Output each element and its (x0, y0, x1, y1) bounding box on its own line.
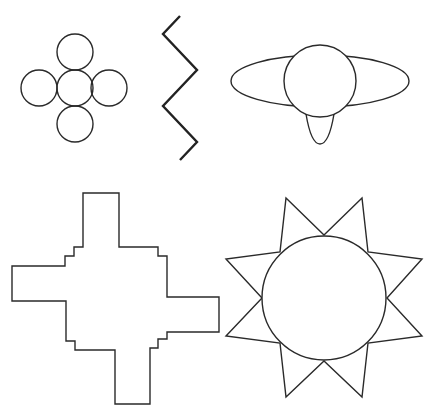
cluster-circle (91, 70, 127, 106)
cluster-circle (57, 106, 93, 142)
circle-cluster (21, 34, 127, 142)
ellipse-figure (231, 45, 409, 144)
sun-figure (226, 198, 422, 397)
zigzag-line (163, 16, 197, 160)
stepped-cross (12, 193, 219, 404)
cluster-circle (57, 34, 93, 70)
ellipse-center-circle (284, 45, 356, 117)
shapes-canvas (0, 0, 436, 418)
sun-circle (262, 236, 386, 360)
drop-shape (306, 114, 334, 144)
cluster-circle (57, 70, 93, 106)
cluster-circle (21, 70, 57, 106)
